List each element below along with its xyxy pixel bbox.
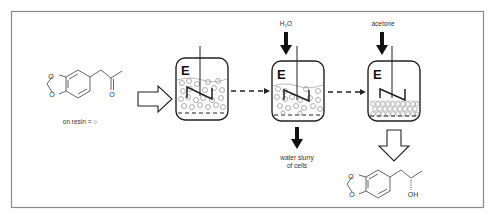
reactor-3 — [368, 46, 420, 121]
substrate-oxygen-1: O — [48, 73, 54, 80]
open-arrow-down-icon — [379, 130, 409, 161]
output-label-line2: of cells — [287, 162, 308, 169]
substrate-oxygen-3: O — [109, 91, 115, 98]
reactor-1 — [176, 46, 228, 120]
water-input-label: H₂O — [280, 20, 292, 27]
enzyme-label-2: E — [277, 67, 286, 82]
process-diagram: O O O on resin = ○ E E — [0, 0, 495, 216]
product-oxygen-1: O — [348, 173, 354, 180]
enzyme-label-1: E — [181, 63, 190, 78]
reactor-2 — [272, 46, 324, 121]
input-arrow-down-icon — [376, 32, 388, 55]
output-arrow-down-icon — [291, 127, 303, 149]
acetone-input-label: acetone — [371, 20, 395, 27]
product-oxygen-2: O — [349, 191, 355, 198]
arrowhead-icon — [360, 89, 366, 95]
input-arrow-down-icon — [280, 32, 292, 55]
substrate-oxygen-2: O — [49, 91, 55, 98]
enzyme-label-3: E — [373, 67, 382, 82]
product-hydroxyl: OH — [408, 191, 419, 198]
output-label-line1: water slurry — [279, 154, 314, 162]
arrowhead-icon — [264, 88, 270, 94]
resin-caption: on resin = ○ — [63, 118, 98, 125]
open-arrow-right-icon — [138, 86, 172, 112]
